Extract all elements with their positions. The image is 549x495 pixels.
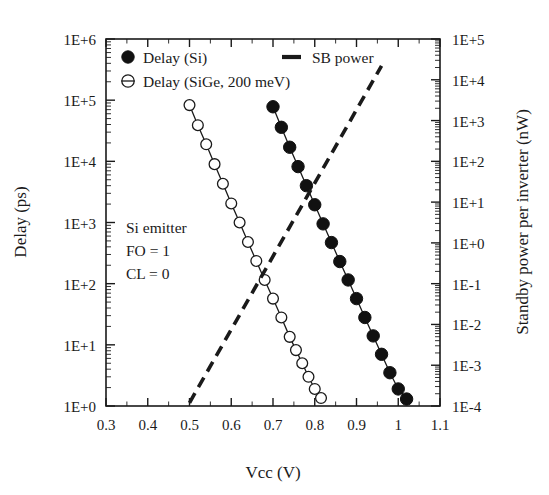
data-point-marker <box>400 393 412 405</box>
y-right-tick-label: 1E+4 <box>452 73 485 89</box>
data-point-marker <box>303 371 314 382</box>
annotation-line-2: FO = 1 <box>126 242 170 259</box>
x-tick-label: 0.9 <box>347 417 366 433</box>
data-point-marker <box>316 393 327 404</box>
data-point-marker <box>201 139 212 150</box>
y-right-axis-title: Standby power per inverter (nW) <box>513 109 532 335</box>
y-right-tick-label: 1E+2 <box>452 154 485 170</box>
y-left-tick-label: 1E+3 <box>63 216 96 232</box>
y-right-tick-label: 1E-4 <box>452 399 482 415</box>
legend-item-delay-sige[interactable]: Delay (SiGe, 200 meV) <box>122 73 291 91</box>
x-tick-label: 0.3 <box>97 417 116 433</box>
legend-label-delay-si: Delay (Si) <box>143 49 207 67</box>
y-left-tick-label: 1E+2 <box>63 277 96 293</box>
data-point-marker <box>350 292 362 304</box>
annotation-line-3: CL = 0 <box>126 265 170 282</box>
y-right-tick-label: 1E+1 <box>452 195 485 211</box>
x-tick-label: 0.8 <box>305 417 324 433</box>
data-point-marker <box>276 312 287 323</box>
y-left-axis-title: Delay (ps) <box>11 186 30 257</box>
y-right-tick-label: 1E+3 <box>452 114 485 130</box>
data-point-marker <box>275 121 287 133</box>
data-point-marker <box>184 100 195 111</box>
data-point-marker <box>209 159 220 170</box>
annotation-line-1: Si emitter <box>126 219 188 236</box>
legend-label-sb-power: SB power <box>312 49 374 66</box>
data-point-marker <box>284 331 295 342</box>
data-point-marker <box>251 256 262 267</box>
data-point-marker <box>309 199 321 211</box>
data-point-marker <box>334 255 346 267</box>
x-tick-label: 1 <box>395 417 403 433</box>
figure-container: 0.30.40.50.60.70.80.911.1 1E+01E+11E+21E… <box>0 0 549 495</box>
data-point-marker <box>359 311 371 323</box>
y-right-tick-label: 1E+0 <box>452 236 485 252</box>
data-point-marker <box>218 178 229 189</box>
filled-circle-icon <box>122 51 134 63</box>
y-left-tick-label: 1E+1 <box>63 338 96 354</box>
data-point-marker <box>325 236 337 248</box>
data-point-marker <box>367 330 379 342</box>
legend-label-delay-sige: Delay (SiGe, 200 meV) <box>143 73 290 91</box>
x-axis-title: Vcc (V) <box>245 463 300 482</box>
data-point-marker <box>292 160 304 172</box>
x-tick-label: 0.5 <box>180 417 199 433</box>
x-tick-label: 0.7 <box>264 417 283 433</box>
x-axis-tick-labels: 0.30.40.50.60.70.80.911.1 <box>97 417 450 433</box>
data-point-marker <box>284 141 296 153</box>
data-point-marker <box>234 217 245 228</box>
y-left-tick-label: 1E+0 <box>63 399 96 415</box>
y-right-tick-label: 1E-2 <box>452 317 481 333</box>
data-point-marker <box>268 293 279 304</box>
delay-vs-vcc-chart: 0.30.40.50.60.70.80.911.1 1E+01E+11E+21E… <box>0 0 549 495</box>
data-point-marker <box>192 120 203 131</box>
data-point-marker <box>226 198 237 209</box>
y-right-tick-label: 1E-3 <box>452 358 481 374</box>
data-point-marker <box>392 383 404 395</box>
data-point-marker <box>297 358 308 369</box>
data-point-marker <box>243 237 254 248</box>
x-tick-label: 0.6 <box>222 417 241 433</box>
y-right-tick-label: 1E-1 <box>452 277 481 293</box>
data-point-marker <box>317 218 329 230</box>
data-point-marker <box>267 101 279 113</box>
y-right-tick-label: 1E+5 <box>452 32 485 48</box>
data-point-marker <box>342 274 354 286</box>
data-point-marker <box>375 348 387 360</box>
y-left-tick-label: 1E+6 <box>63 32 96 48</box>
data-point-marker <box>291 345 302 356</box>
x-tick-label: 1.1 <box>431 417 450 433</box>
y-left-tick-label: 1E+5 <box>63 93 96 109</box>
y-left-tick-label: 1E+4 <box>63 154 96 170</box>
x-tick-label: 0.4 <box>138 417 157 433</box>
data-point-marker <box>384 367 396 379</box>
